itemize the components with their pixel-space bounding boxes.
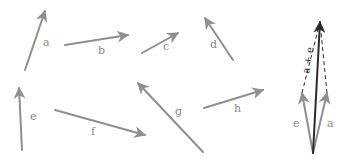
vector-c: c — [142, 33, 178, 53]
vector-f: f — [55, 110, 145, 138]
vector-e: e — [19, 88, 37, 150]
vector-arrow — [142, 33, 178, 53]
vector-b: b — [65, 35, 128, 57]
vector-arrow — [19, 88, 22, 150]
sum-component-label: e — [293, 117, 300, 130]
vector-diagram-svg: abcdefgh eaa + e — [0, 0, 350, 166]
vector-d: d — [205, 18, 233, 60]
vector-arrow — [55, 110, 145, 135]
vector-label: h — [234, 102, 241, 115]
vector-g: g — [138, 83, 203, 152]
dashed-side-right — [320, 22, 327, 93]
vector-label: b — [98, 44, 105, 57]
vector-h: h — [204, 90, 263, 115]
vector-arrow — [65, 35, 128, 45]
vector-label: d — [210, 38, 217, 51]
sum-component-label: a — [327, 117, 334, 130]
resultant-label: a + e — [300, 46, 315, 74]
vector-label: e — [30, 110, 37, 123]
vector-label: c — [163, 40, 169, 53]
vector-label: g — [175, 105, 182, 118]
resultant-vector — [313, 22, 320, 153]
sum-component-e — [302, 93, 313, 153]
vector-sum-figure: eaa + e — [293, 22, 334, 153]
vector-arrow — [138, 83, 203, 152]
vector-diagram: abcdefgh eaa + e — [0, 0, 350, 166]
vector-arrow — [25, 11, 45, 70]
vector-label: f — [91, 125, 96, 138]
vector-a: a — [25, 11, 50, 70]
vector-label: a — [43, 36, 50, 49]
vectors-group: abcdefgh — [19, 11, 263, 152]
